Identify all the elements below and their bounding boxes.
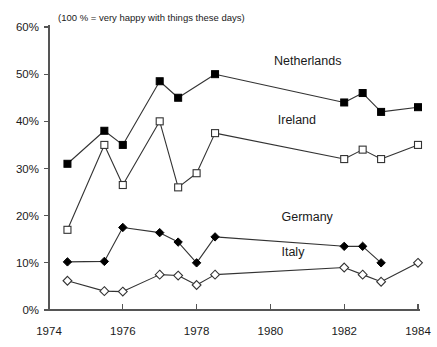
data-point-marker bbox=[156, 78, 163, 85]
x-axis-tick-label: 1980 bbox=[258, 325, 284, 337]
chart-axes bbox=[44, 25, 420, 310]
data-point-marker bbox=[415, 104, 422, 111]
data-point-marker bbox=[119, 182, 126, 189]
y-axis-tick-label: 10% bbox=[16, 257, 39, 269]
series-italy bbox=[63, 258, 422, 296]
y-axis-tick-label: 30% bbox=[16, 163, 39, 175]
series-ireland bbox=[64, 118, 422, 233]
data-point-marker bbox=[359, 90, 366, 97]
data-point-marker bbox=[64, 226, 71, 233]
x-axis-tick-label: 1974 bbox=[36, 325, 62, 337]
happiness-line-chart: (100 % = very happy with things these da… bbox=[0, 0, 437, 347]
data-point-marker bbox=[359, 146, 366, 153]
x-axis-tick-label: 1978 bbox=[184, 325, 210, 337]
data-point-marker bbox=[119, 223, 127, 231]
series-line-italy bbox=[67, 263, 418, 292]
chart-note-group: (100 % = very happy with things these da… bbox=[58, 12, 245, 23]
data-point-marker bbox=[378, 108, 385, 115]
data-point-marker bbox=[101, 141, 108, 148]
x-axis-tick-label: 1984 bbox=[405, 325, 431, 337]
data-point-marker bbox=[100, 287, 109, 296]
x-axis-tick-labels: 197419761978198019821984 bbox=[36, 325, 431, 337]
data-point-marker bbox=[175, 94, 182, 101]
data-point-marker bbox=[119, 141, 126, 148]
series-label-germany: Germany bbox=[281, 210, 333, 224]
data-point-marker bbox=[340, 242, 348, 250]
data-point-marker bbox=[341, 99, 348, 106]
y-axis-tick-label: 60% bbox=[16, 21, 39, 33]
data-point-marker bbox=[193, 170, 200, 177]
data-point-marker bbox=[192, 281, 201, 290]
chart-note: (100 % = very happy with things these da… bbox=[58, 12, 245, 23]
data-point-marker bbox=[156, 228, 164, 236]
data-point-marker bbox=[174, 271, 183, 280]
x-axis-tick-label: 1982 bbox=[331, 325, 357, 337]
y-axis-tick-label: 40% bbox=[16, 115, 39, 127]
data-point-marker bbox=[118, 287, 127, 296]
data-point-marker bbox=[211, 233, 219, 241]
data-point-marker bbox=[377, 277, 386, 286]
series-germany bbox=[63, 223, 385, 267]
data-point-marker bbox=[340, 263, 349, 272]
data-point-marker bbox=[100, 257, 108, 265]
data-point-marker bbox=[341, 156, 348, 163]
series-line-germany bbox=[67, 227, 381, 262]
data-point-marker bbox=[358, 270, 367, 279]
y-axis-tick-label: 50% bbox=[16, 68, 39, 80]
data-point-marker bbox=[211, 270, 220, 279]
series-line-ireland bbox=[67, 121, 418, 229]
data-point-marker bbox=[378, 156, 385, 163]
data-point-marker bbox=[101, 127, 108, 134]
x-axis-tick-label: 1976 bbox=[110, 325, 136, 337]
data-point-marker bbox=[212, 71, 219, 78]
data-point-marker bbox=[156, 118, 163, 125]
data-point-marker bbox=[414, 258, 423, 267]
y-axis-tick-label: 0% bbox=[22, 304, 39, 316]
data-point-marker bbox=[155, 270, 164, 279]
series-label-italy: Italy bbox=[281, 245, 305, 259]
chart-series bbox=[63, 71, 422, 296]
data-point-marker bbox=[63, 258, 71, 266]
y-axis-tick-labels: 0%10%20%30%40%50%60% bbox=[16, 21, 39, 316]
data-point-marker bbox=[63, 276, 72, 285]
series-label-netherlands: Netherlands bbox=[274, 54, 341, 68]
data-point-marker bbox=[212, 130, 219, 137]
data-point-marker bbox=[175, 184, 182, 191]
data-point-marker bbox=[415, 141, 422, 148]
chart-container: (100 % = very happy with things these da… bbox=[0, 0, 437, 347]
y-axis-tick-label: 20% bbox=[16, 210, 39, 222]
data-point-marker bbox=[64, 160, 71, 167]
series-label-ireland: Ireland bbox=[278, 113, 316, 127]
